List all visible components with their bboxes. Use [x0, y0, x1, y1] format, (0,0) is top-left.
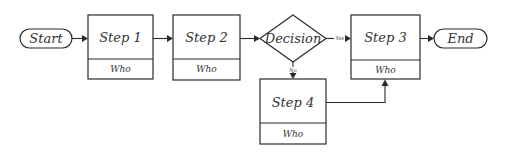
decision-node: Decision: [260, 15, 326, 62]
edge-decision-step4-no: No: [288, 62, 296, 79]
step2-owner: Who: [196, 64, 217, 74]
step1-node: Step 1 Who: [88, 15, 153, 79]
end-label: End: [446, 31, 473, 46]
step1-owner: Who: [110, 64, 131, 74]
step3-owner: Who: [375, 65, 396, 75]
decision-label: Decision: [264, 31, 322, 46]
yes-label: Yes: [336, 35, 345, 41]
edge-step1-step2: [153, 35, 173, 42]
edge-step3-end: [420, 35, 434, 42]
step3-label: Step 3: [364, 30, 407, 45]
edge-step4-step3: [326, 80, 389, 103]
no-label: No: [288, 67, 296, 73]
step1-label: Step 1: [99, 30, 142, 45]
start-node: Start: [20, 29, 72, 48]
edge-decision-step3-yes: Yes: [326, 35, 351, 42]
end-node: End: [434, 29, 487, 48]
step4-owner: Who: [283, 129, 304, 139]
edge-start-step1: [72, 35, 88, 42]
step2-label: Step 2: [185, 30, 228, 45]
step4-label: Step 4: [272, 95, 315, 110]
start-label: Start: [29, 31, 63, 46]
step2-node: Step 2 Who: [173, 15, 240, 80]
step3-node: Step 3 Who: [351, 15, 420, 79]
step4-node: Step 4 Who: [260, 79, 326, 144]
edge-step2-decision: [240, 35, 260, 42]
flowchart-canvas: Start Step 1 Who Step 2 Who Decision Yes: [0, 0, 506, 155]
